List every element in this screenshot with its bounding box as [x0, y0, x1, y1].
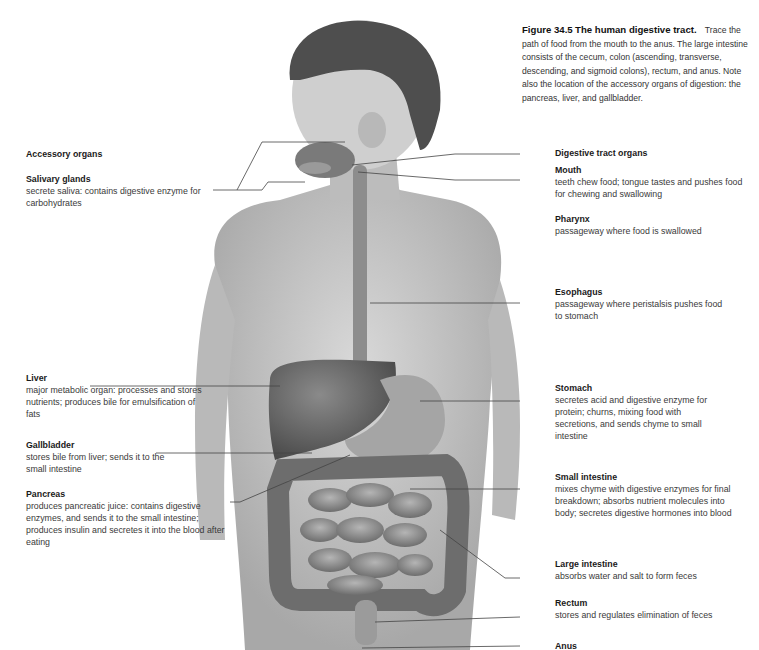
label-rectum: Rectum stores and regulates elimination … [555, 597, 715, 621]
label-desc: mixes chyme with digestive enzymes for f… [555, 484, 732, 518]
label-name: Pancreas [26, 488, 236, 500]
label-name: Large intestine [555, 558, 750, 570]
figure-number: Figure 34.5 [522, 24, 573, 35]
ear-shape [358, 112, 386, 148]
right-arm-shape [488, 280, 520, 520]
label-salivary-glands: Salivary glands secrete saliva: contains… [26, 173, 216, 209]
label-desc: teeth chew food; tongue tastes and pushe… [555, 177, 742, 199]
label-name: Small intestine [555, 471, 740, 483]
label-name: Mouth [555, 164, 755, 176]
label-desc: stores bile from liver; sends it to the … [26, 452, 164, 474]
label-large-intestine: Large intestine absorbs water and salt t… [555, 558, 750, 582]
figure-caption-text: Trace the path of food from the mouth to… [522, 25, 748, 103]
label-name: Esophagus [555, 286, 730, 298]
label-desc: passageway where food is swallowed [555, 226, 702, 236]
label-small-intestine: Small intestine mixes chyme with digesti… [555, 471, 740, 519]
label-desc: passageway where peristalsis pushes food… [555, 299, 722, 321]
label-name: Rectum [555, 597, 715, 609]
label-desc: secretes acid and digestive enzyme for p… [555, 395, 707, 441]
label-name: Salivary glands [26, 173, 216, 185]
figure-caption: Figure 34.5 The human digestive tract. T… [522, 23, 754, 106]
label-desc: major metabolic organ: processes and sto… [26, 385, 202, 419]
label-name: Stomach [555, 382, 725, 394]
label-mouth: Mouth teeth chew food; tongue tastes and… [555, 164, 755, 200]
label-desc: absorbs water and salt to form feces [555, 571, 697, 581]
esophagus-shape [353, 165, 367, 380]
label-pharynx: Pharynx passageway where food is swallow… [555, 213, 755, 237]
label-name: Anus [555, 640, 715, 650]
label-name: Liver [26, 372, 206, 384]
label-desc: secrete saliva: contains digestive enzym… [26, 186, 201, 208]
label-name: Pharynx [555, 213, 755, 225]
label-desc: stores and regulates elimination of fece… [555, 610, 712, 620]
digestive-tract-organs-heading: Digestive tract organs [555, 148, 647, 158]
rectum-shape [355, 600, 377, 645]
label-esophagus: Esophagus passageway where peristalsis p… [555, 286, 730, 322]
label-gallbladder: Gallbladder stores bile from liver; send… [26, 439, 176, 475]
label-name: Gallbladder [26, 439, 176, 451]
accessory-organs-heading: Accessory organs [26, 149, 102, 159]
label-anus: Anus [555, 640, 715, 650]
label-pancreas: Pancreas produces pancreatic juice: cont… [26, 488, 236, 548]
salivary-gland-shape [299, 162, 331, 174]
figure-title: The human digestive tract. [575, 24, 697, 35]
label-liver: Liver major metabolic organ: processes a… [26, 372, 206, 420]
label-stomach: Stomach secretes acid and digestive enzy… [555, 382, 725, 442]
label-desc: produces pancreatic juice: contains dige… [26, 501, 225, 547]
